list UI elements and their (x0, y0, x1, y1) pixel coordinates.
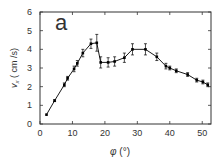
data-point (186, 73, 189, 76)
y-tick-label: 0 (27, 119, 32, 129)
data-point (53, 99, 56, 102)
x-tick-label: 50 (197, 128, 207, 138)
x-axis-label: φ (°) (110, 146, 130, 157)
x-tick-label: 20 (100, 128, 110, 138)
x-tick-label: 10 (67, 128, 77, 138)
x-tick-label: 0 (37, 128, 42, 138)
data-point (82, 52, 85, 55)
panel-label: a (55, 10, 68, 35)
chart: 010203040500123456 a φ (°) vx ( cm /s) (0, 0, 222, 162)
data-point (175, 70, 178, 73)
y-tick-label: 2 (27, 82, 32, 92)
series-line (46, 43, 207, 115)
data-point (73, 68, 76, 71)
data-point (66, 77, 69, 80)
data-point (168, 67, 171, 70)
y-axis-label: vx ( cm /s) (9, 48, 20, 88)
data-point (76, 62, 79, 65)
data-point (90, 42, 93, 45)
data-point (63, 84, 66, 87)
y-tick-label: 5 (27, 26, 32, 36)
data-point (99, 61, 102, 64)
data-point (195, 79, 198, 82)
x-tick-label: 30 (132, 128, 142, 138)
y-tick-label: 6 (27, 7, 32, 17)
data-point (123, 56, 126, 59)
data-point (95, 42, 98, 45)
data-point (45, 113, 48, 116)
data-point (113, 60, 116, 63)
data-point (156, 56, 159, 59)
data-point (165, 65, 168, 68)
data-point (202, 81, 205, 84)
y-tick-label: 4 (27, 44, 32, 54)
data-point (144, 48, 147, 51)
y-tick-label: 1 (27, 100, 32, 110)
data-point (206, 84, 209, 87)
plot-area (45, 34, 209, 116)
x-tick-label: 40 (165, 128, 175, 138)
data-point (107, 61, 110, 64)
y-tick-label: 3 (27, 63, 32, 73)
data-point (131, 48, 134, 51)
